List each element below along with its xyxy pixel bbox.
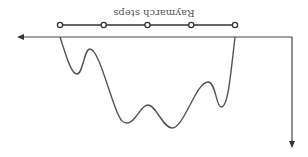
raymarch-diagram: Raymarch steps <box>0 0 308 157</box>
step-marker <box>232 22 237 27</box>
step-marker <box>57 22 62 27</box>
vertical-axis-arrow-icon <box>289 141 295 148</box>
surface-curve <box>60 37 235 128</box>
step-marker <box>101 22 106 27</box>
horizontal-axis-arrow-icon <box>17 34 24 40</box>
diagram-title: Raymarch steps <box>113 8 194 19</box>
step-marker <box>189 22 194 27</box>
step-marker <box>145 22 150 27</box>
diagram-canvas: Raymarch steps <box>0 0 308 157</box>
